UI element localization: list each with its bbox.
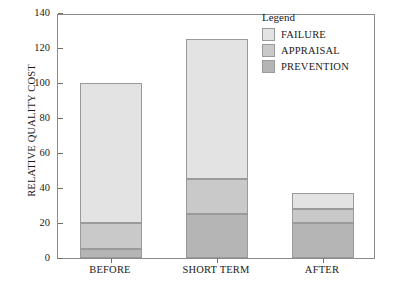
legend-swatch: [262, 28, 275, 41]
y-axis-tick-label: 20: [40, 218, 59, 229]
legend-label: APPRAISAL: [281, 45, 340, 56]
legend-label: PREVENTION: [281, 61, 349, 72]
bar-segment: [80, 223, 142, 249]
legend: Legend FAILUREAPPRAISALPREVENTION: [262, 11, 349, 76]
bar-segment: [292, 223, 354, 258]
x-axis-tick-mark: [323, 258, 324, 263]
legend-entries: FAILUREAPPRAISALPREVENTION: [262, 28, 349, 73]
bar-segment: [292, 193, 354, 209]
y-axis-tick-label: 100: [34, 78, 58, 89]
y-axis-tick-label: 60: [40, 148, 59, 159]
legend-swatch: [262, 60, 275, 73]
x-axis-tick-mark: [217, 258, 218, 263]
legend-entry: FAILURE: [262, 28, 349, 41]
bar-segment: [186, 179, 248, 214]
legend-title: Legend: [262, 11, 349, 23]
legend-swatch: [262, 44, 275, 57]
bar-segment: [292, 209, 354, 223]
y-axis-tick-label: 140: [34, 8, 58, 19]
y-axis-tick-label: 0: [45, 253, 58, 264]
y-axis-tick-label: 80: [40, 113, 59, 124]
bar-chart: RELATIVE QUALITY COST 020406080100120140…: [0, 0, 394, 297]
bar-segment: [80, 249, 142, 258]
y-axis-tick-mark: [58, 13, 63, 14]
bar-group: [80, 13, 142, 258]
bar-segment: [186, 39, 248, 179]
legend-entry: PREVENTION: [262, 60, 349, 73]
x-axis-label: BEFORE: [50, 264, 170, 275]
y-axis-title: RELATIVE QUALITY COST: [26, 21, 37, 241]
bar-segment: [186, 214, 248, 258]
y-axis-tick-label: 40: [40, 183, 59, 194]
bar-group: [186, 13, 248, 258]
legend-label: FAILURE: [281, 29, 326, 40]
legend-entry: APPRAISAL: [262, 44, 349, 57]
x-axis-tick-mark: [111, 258, 112, 263]
bar-segment: [80, 83, 142, 223]
x-axis-label: SHORT TERM: [156, 264, 276, 275]
y-axis-tick-label: 120: [34, 43, 58, 54]
x-axis-label: AFTER: [262, 264, 382, 275]
